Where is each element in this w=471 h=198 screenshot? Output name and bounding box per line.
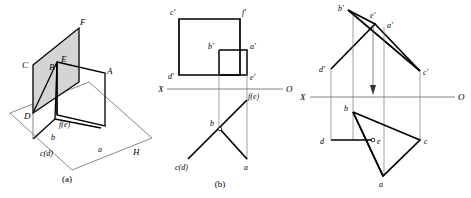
label-b-b: b bbox=[210, 119, 214, 128]
label-a-D: D bbox=[23, 111, 31, 121]
sight-arrow-head bbox=[370, 85, 376, 95]
label-c-b: b bbox=[344, 104, 348, 113]
label-a-C: C bbox=[22, 60, 29, 70]
label-b-e-prime: e' bbox=[250, 73, 256, 82]
label-b-fe: f(e) bbox=[248, 92, 259, 101]
label-c-a-prime: a' bbox=[387, 21, 393, 30]
label-a-H: H bbox=[132, 147, 140, 157]
top-view-chain-c bbox=[353, 112, 420, 176]
label-a-a: a bbox=[98, 145, 102, 154]
axis-label-X-b: X bbox=[157, 84, 164, 94]
panel-c-projection: X O b' e' a' d' c' bbox=[299, 4, 465, 189]
node-marker-e-c bbox=[371, 138, 375, 142]
technical-drawing-svg: F C B E A D f(e) b c(d) a H (a) X O bbox=[0, 0, 471, 198]
label-a-A: A bbox=[106, 66, 113, 76]
label-c-c-prime: c' bbox=[423, 68, 429, 77]
label-a-B: B bbox=[49, 62, 55, 72]
axis-label-X-c: X bbox=[299, 92, 306, 102]
label-a-F: F bbox=[79, 17, 86, 27]
label-b-d-prime: d' bbox=[168, 72, 174, 81]
label-c-d: d bbox=[320, 137, 325, 146]
label-b-c-prime: c' bbox=[170, 8, 176, 17]
hplane-edge-b-to-a bbox=[219, 128, 247, 159]
label-c-b-prime: b' bbox=[338, 4, 344, 13]
label-b-a: a bbox=[244, 163, 248, 172]
front-view-rect-bae bbox=[219, 50, 247, 75]
label-a-E: E bbox=[60, 54, 67, 64]
axis-label-O-b: O bbox=[286, 84, 293, 94]
label-a-cd: c(d) bbox=[40, 149, 53, 158]
front-view-chain-c3 bbox=[375, 24, 420, 71]
label-b-a-prime: a' bbox=[250, 42, 256, 51]
caption-a: (a) bbox=[62, 174, 72, 184]
label-b-b-prime: b' bbox=[208, 42, 214, 51]
label-b-cd: c(d) bbox=[175, 163, 188, 172]
label-c-c: c bbox=[424, 137, 428, 146]
label-c-d-prime: d' bbox=[319, 65, 325, 74]
panel-a-pictorial: F C B E A D f(e) b c(d) a H (a) bbox=[10, 17, 152, 184]
label-a-b: b bbox=[51, 133, 55, 142]
label-b-f-prime: f' bbox=[242, 8, 246, 17]
hplane-edge-b-to-fe bbox=[219, 100, 247, 128]
panel-b-projection: X O c' f' b' a' d' e' f(e) bbox=[157, 8, 293, 189]
label-a-fe: f(e) bbox=[59, 120, 70, 129]
caption-b: (b) bbox=[215, 179, 226, 189]
label-c-e-prime: e' bbox=[370, 11, 376, 20]
axis-label-O-c: O bbox=[458, 92, 465, 102]
figure-root: F C B E A D f(e) b c(d) a H (a) X O bbox=[0, 0, 471, 198]
label-c-e: e bbox=[377, 137, 381, 146]
label-c-a: a bbox=[379, 180, 383, 189]
horizontal-plane-H bbox=[10, 82, 152, 170]
hplane-edge-b-to-cd bbox=[188, 128, 219, 159]
node-marker-b-b bbox=[218, 127, 222, 131]
